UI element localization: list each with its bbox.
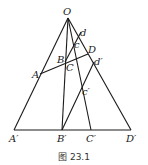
label-O: O — [63, 6, 71, 17]
line-O-B1 — [62, 18, 68, 130]
label-B: B — [56, 54, 64, 65]
line-O-D1 — [68, 18, 131, 130]
projective-geometry-diagram: O A B C D c d d′ c′ A′ B′ C′ D′ 图 23.1 — [0, 0, 148, 165]
label-B-prime: B′ — [56, 133, 67, 144]
label-d-prime: d′ — [94, 56, 103, 67]
label-c-prime: c′ — [82, 86, 91, 97]
label-c: c — [74, 39, 80, 50]
label-C-prime: C′ — [86, 133, 97, 144]
label-A-prime: A′ — [8, 133, 19, 144]
label-C: C — [66, 62, 74, 73]
label-D-prime: D′ — [125, 133, 137, 144]
label-d: d — [80, 27, 86, 38]
figure-caption: 图 23.1 — [58, 152, 90, 162]
label-A: A — [31, 69, 39, 80]
label-D: D — [87, 44, 96, 55]
